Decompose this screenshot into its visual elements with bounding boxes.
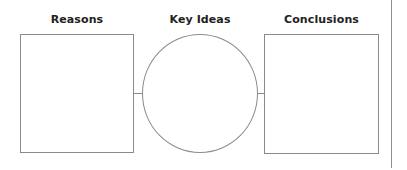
reasons-title: Reasons [20, 13, 134, 26]
reasons-box [20, 34, 134, 153]
page-edge-divider [391, 0, 392, 168]
conclusions-box [264, 34, 379, 154]
key-ideas-circle [142, 34, 258, 153]
key-ideas-title: Key Ideas [142, 13, 258, 26]
conclusions-title: Conclusions [264, 13, 379, 26]
